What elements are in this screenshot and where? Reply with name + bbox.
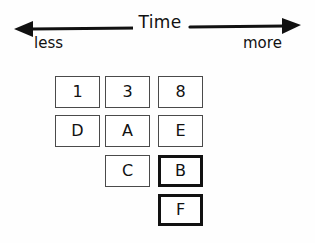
time-axis-left-label: less xyxy=(34,34,63,52)
grid-box[interactable]: C xyxy=(105,155,150,187)
box-grid: 1 3 8 D A E C B F xyxy=(55,76,205,228)
grid-box[interactable]: 8 xyxy=(158,76,203,108)
grid-box[interactable]: D xyxy=(55,115,100,147)
grid-box[interactable]: 3 xyxy=(105,76,150,108)
grid-box[interactable]: A xyxy=(105,115,150,147)
grid-box-placeholder xyxy=(55,194,100,226)
time-axis-title: Time xyxy=(133,12,187,32)
grid-box-placeholder xyxy=(105,194,150,226)
grid-box[interactable]: E xyxy=(158,115,203,147)
diagram-canvas: Time less more 1 3 8 D A E C B F xyxy=(0,0,315,243)
grid-box[interactable]: 1 xyxy=(55,76,100,108)
grid-box-highlighted[interactable]: F xyxy=(158,194,203,226)
grid-box-highlighted[interactable]: B xyxy=(158,155,203,187)
time-axis: Time less more xyxy=(0,0,315,62)
time-axis-right-label: more xyxy=(243,34,282,52)
grid-box-placeholder xyxy=(55,155,100,187)
